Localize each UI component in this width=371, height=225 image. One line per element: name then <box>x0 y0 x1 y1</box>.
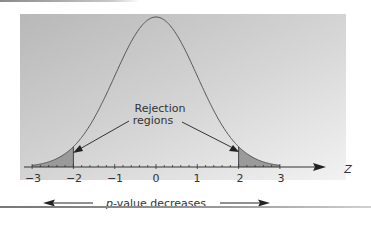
annotation-rejection-line2: regions <box>133 114 174 127</box>
tick-label: −3 <box>25 172 41 185</box>
caption-rest: -value decreases <box>113 197 206 210</box>
p-value-caption: p-value decreases <box>105 197 206 210</box>
tick-label: 2 <box>237 172 244 185</box>
tick-label: −1 <box>107 172 123 185</box>
tick-label: 1 <box>194 172 201 185</box>
z-axis-label: Z <box>343 163 352 176</box>
tick-label: 3 <box>278 172 285 185</box>
tick-label: −2 <box>66 172 82 185</box>
tick-label: 0 <box>153 172 160 185</box>
bottom-rule <box>0 206 371 208</box>
normal-curve-figure: −3 −2 −1 0 1 2 3 Z Rejection regions p-v… <box>0 0 371 225</box>
p-italic: p <box>105 197 113 210</box>
